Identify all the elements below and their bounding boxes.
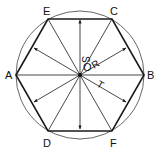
arrow-lower-left bbox=[34, 75, 80, 102]
vertex-label-c: C bbox=[110, 5, 118, 17]
vertex-label-f: F bbox=[110, 137, 117, 149]
vertex-label-e: E bbox=[43, 5, 50, 17]
vertex-label-b: B bbox=[147, 69, 154, 81]
arrow-upper-left bbox=[34, 48, 80, 75]
vertex-label-d: D bbox=[43, 137, 51, 149]
vertex-label-a: A bbox=[5, 69, 13, 81]
hexagon-diagram: E C A B D F O S R T bbox=[0, 0, 159, 149]
center-point bbox=[78, 73, 82, 77]
